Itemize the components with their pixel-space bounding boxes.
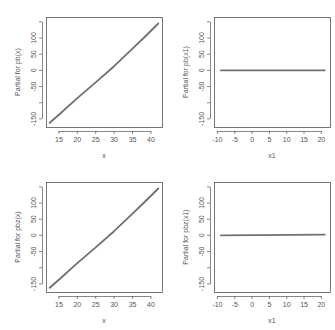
y-axis: -150-50050100 bbox=[30, 187, 43, 291]
x-tick-label: 10 bbox=[283, 301, 291, 308]
y-axis: -150-50050100 bbox=[198, 187, 211, 291]
x-tick-label: 20 bbox=[317, 136, 325, 143]
x-tick-label: 5 bbox=[267, 301, 271, 308]
y-tick-label: 0 bbox=[198, 233, 205, 237]
x-tick-label: -5 bbox=[232, 301, 238, 308]
x-tick-label: 15 bbox=[300, 301, 308, 308]
plot-panel-pb-x1: -10-505101520-150-50050100x1Partial for … bbox=[168, 0, 335, 165]
y-tick-label: 0 bbox=[198, 68, 205, 72]
y-tick-label: 50 bbox=[198, 215, 205, 223]
x-tick-label: 5 bbox=[267, 136, 271, 143]
x-axis: 152025303540 bbox=[55, 296, 155, 308]
y-axis-label: Partial for pbz(x1) bbox=[182, 209, 190, 264]
x-tick-label: 20 bbox=[73, 136, 81, 143]
y-axis-label: Partial for pb(x) bbox=[14, 48, 22, 96]
y-tick-label: -50 bbox=[30, 246, 37, 256]
x-axis: 152025303540 bbox=[55, 131, 155, 143]
x-tick-label: 40 bbox=[147, 136, 155, 143]
x-tick-label: 30 bbox=[110, 136, 118, 143]
x-tick-label: 30 bbox=[110, 301, 118, 308]
y-tick-label: 100 bbox=[198, 32, 205, 44]
x-tick-label: 20 bbox=[317, 301, 325, 308]
plot-panel-pbz-x1: -10-505101520-150-50050100x1Partial for … bbox=[168, 165, 335, 330]
y-tick-label: -50 bbox=[198, 246, 205, 256]
x-tick-label: 15 bbox=[55, 136, 63, 143]
partial-effect-line bbox=[50, 189, 159, 288]
plot-panel-pbz-x: 152025303540-150-50050100xPartial for pb… bbox=[0, 165, 167, 330]
y-tick-label: 50 bbox=[30, 50, 37, 58]
plot-panel-pb-x: 152025303540-150-50050100xPartial for pb… bbox=[0, 0, 167, 165]
x-tick-label: 0 bbox=[250, 136, 254, 143]
y-tick-label: 0 bbox=[30, 233, 37, 237]
y-tick-label: 0 bbox=[30, 68, 37, 72]
x-axis: -10-505101520 bbox=[212, 296, 325, 308]
plot-frame bbox=[215, 183, 331, 293]
x-tick-label: 15 bbox=[55, 301, 63, 308]
y-axis-label: Partial for pb(x1) bbox=[182, 46, 190, 98]
y-tick-label: 50 bbox=[30, 215, 37, 223]
x-axis-label: x bbox=[102, 152, 106, 159]
y-tick-label: -50 bbox=[198, 81, 205, 91]
y-tick-label: 50 bbox=[198, 50, 205, 58]
chart-svg: -10-505101520-150-50050100x1Partial for … bbox=[168, 165, 335, 330]
x-tick-label: 0 bbox=[250, 301, 254, 308]
y-axis-label: Partial for pbz(x) bbox=[14, 211, 22, 262]
y-tick-label: -50 bbox=[30, 81, 37, 91]
x-tick-label: 20 bbox=[73, 301, 81, 308]
y-tick-label: 100 bbox=[30, 32, 37, 44]
partial-effect-line bbox=[221, 235, 325, 236]
x-tick-label: 15 bbox=[300, 136, 308, 143]
x-tick-label: 25 bbox=[92, 301, 100, 308]
y-axis: -150-50050100 bbox=[30, 22, 43, 126]
y-tick-label: -150 bbox=[198, 277, 205, 291]
x-axis-label: x1 bbox=[268, 317, 276, 324]
chart-svg: 152025303540-150-50050100xPartial for pb… bbox=[0, 165, 167, 330]
x-axis: -10-505101520 bbox=[212, 131, 325, 143]
x-tick-label: -5 bbox=[232, 136, 238, 143]
plot-frame bbox=[215, 18, 331, 128]
x-tick-label: -10 bbox=[212, 301, 222, 308]
y-tick-label: 100 bbox=[198, 197, 205, 209]
y-tick-label: -150 bbox=[30, 277, 37, 291]
x-tick-label: 35 bbox=[129, 136, 137, 143]
x-tick-label: 35 bbox=[129, 301, 137, 308]
y-axis: -150-50050100 bbox=[198, 22, 211, 126]
partial-effect-line bbox=[50, 24, 159, 123]
x-axis-label: x1 bbox=[268, 152, 276, 159]
x-tick-label: 40 bbox=[147, 301, 155, 308]
chart-svg: -10-505101520-150-50050100x1Partial for … bbox=[168, 0, 335, 165]
chart-svg: 152025303540-150-50050100xPartial for pb… bbox=[0, 0, 167, 165]
x-tick-label: 25 bbox=[92, 136, 100, 143]
x-tick-label: 10 bbox=[283, 136, 291, 143]
y-tick-label: 100 bbox=[30, 197, 37, 209]
y-tick-label: -150 bbox=[30, 112, 37, 126]
y-tick-label: -150 bbox=[198, 112, 205, 126]
x-tick-label: -10 bbox=[212, 136, 222, 143]
x-axis-label: x bbox=[102, 317, 106, 324]
